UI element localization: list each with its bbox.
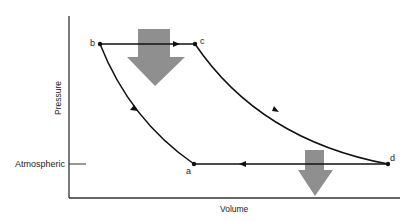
path-d-a-arrow-icon — [239, 161, 246, 167]
point-label-b: b — [90, 38, 95, 48]
point-label-d: d — [390, 153, 395, 163]
large-heat-arrow-icon — [127, 29, 185, 86]
path-b-c-arrow-icon — [173, 41, 180, 47]
path-c-d-arrow-icon — [272, 106, 279, 112]
pv-diagram: a b c d Atmospheric Volume Pressure — [0, 0, 415, 221]
small-heat-arrow-icon — [298, 150, 333, 196]
y-axis-label: Pressure — [53, 81, 63, 115]
x-axis-label: Volume — [220, 204, 249, 214]
point-b — [98, 42, 102, 46]
point-a — [192, 162, 196, 166]
path-a-b-arrow-icon — [130, 105, 138, 111]
reference-line-label: Atmospheric — [15, 159, 66, 169]
point-label-c: c — [200, 36, 205, 46]
point-c — [193, 42, 197, 46]
point-label-a: a — [186, 166, 191, 176]
path-c-d — [195, 44, 388, 164]
